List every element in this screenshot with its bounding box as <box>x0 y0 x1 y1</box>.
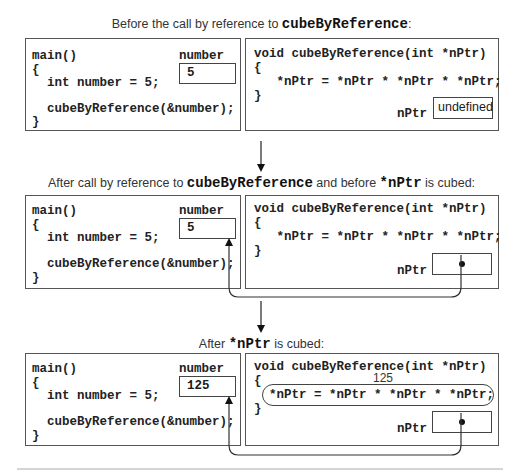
stage-transition-arrow-2 <box>257 301 265 333</box>
pointer-arrow-stage2 <box>225 238 461 297</box>
pointer-arrow-stage3 <box>225 396 461 455</box>
connectors-layer <box>0 0 523 473</box>
stage-transition-arrow-1 <box>257 141 265 172</box>
